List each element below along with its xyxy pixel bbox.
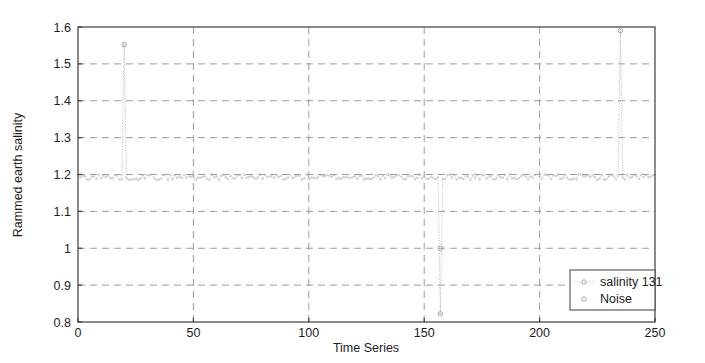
- x-tick-label: 0: [75, 326, 82, 340]
- x-tick-label: 100: [298, 326, 319, 340]
- y-tick-label: 1.2: [54, 168, 71, 182]
- legend-label-noise: Noise: [600, 292, 632, 306]
- y-tick-label: 1.4: [54, 94, 71, 108]
- y-tick-label: 1.5: [54, 57, 71, 71]
- y-tick-label: 1: [64, 242, 71, 256]
- x-tick-label: 50: [186, 326, 200, 340]
- y-tick-label: 1.3: [54, 131, 71, 145]
- legend-label-salinity-131: salinity 131: [600, 275, 663, 289]
- chart-figure: 0501001502002500.80.911.11.21.31.41.51.6…: [0, 0, 705, 363]
- y-tick-label: 1.6: [54, 21, 71, 35]
- x-tick-label: 150: [414, 326, 435, 340]
- chart-legend[interactable]: salinity 131Noise: [570, 270, 663, 310]
- y-tick-label: 0.8: [54, 316, 71, 330]
- salinity-time-series-chart: 0501001502002500.80.911.11.21.31.41.51.6…: [0, 0, 705, 363]
- x-tick-label: 250: [645, 326, 666, 340]
- y-tick-label: 0.9: [54, 279, 71, 293]
- x-tick-label: 200: [529, 326, 550, 340]
- y-tick-label: 1.1: [54, 205, 71, 219]
- x-axis-title: Time Series: [333, 341, 399, 355]
- y-axis-title: Rammed earth salinity: [11, 112, 25, 237]
